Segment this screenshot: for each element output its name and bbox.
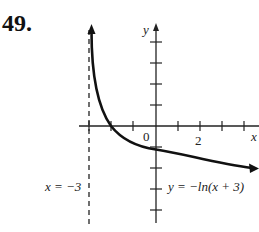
y-axis-arrow-icon [153,23,159,31]
graph: y x 0 2 x = −3 y = −ln(x + 3) [0,0,259,232]
x-axis [79,121,259,131]
function-curve [92,31,253,168]
function-label: y = −ln(x + 3) [166,179,244,194]
y-axis [150,23,162,223]
tick-label-2: 2 [195,133,202,148]
curve-arrow-up-icon [88,24,96,34]
asymptote-label: x = −3 [44,179,82,194]
origin-label: 0 [143,129,150,144]
y-axis-label: y [141,22,149,37]
curve-arrow-right-icon [249,164,259,174]
x-axis-label: x [250,129,257,144]
